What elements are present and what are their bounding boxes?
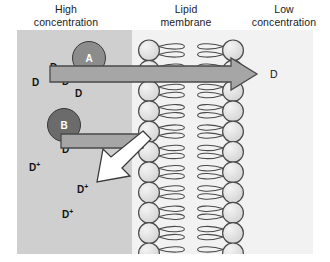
label-high-line2: concentration [18,16,114,29]
diagram-canvas: High concentration Lipid membrane Low co… [0,0,330,262]
active-transport-arrow [17,30,313,254]
label-membrane-line2: membrane [140,16,232,29]
label-high-line1: High [18,3,114,16]
label-low-line2: concentration [240,16,328,29]
label-high-concentration: High concentration [18,3,114,28]
diagram-frame: DDDDD+D+D+D+ A B D [17,30,313,254]
label-membrane-line1: Lipid [140,3,232,16]
label-low-line1: Low [240,3,328,16]
label-lipid-membrane: Lipid membrane [140,3,232,28]
label-low-concentration: Low concentration [240,3,328,28]
solute-label-right: D [270,68,278,80]
